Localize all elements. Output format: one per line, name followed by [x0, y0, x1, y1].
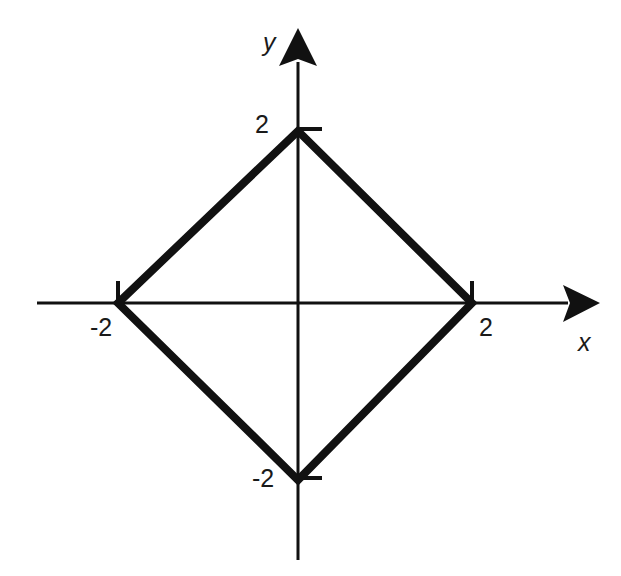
- coordinate-plot-svg: [0, 0, 621, 576]
- figure-canvas: 2 2 -2 -2 x y: [0, 0, 621, 576]
- y-axis-label: y: [263, 30, 276, 55]
- diamond-curve: [118, 131, 472, 480]
- diamond-shape-group: [118, 131, 472, 480]
- y-axis-arrowhead: [279, 28, 317, 66]
- tick-label-y-positive: 2: [255, 112, 269, 137]
- x-axis-arrowhead: [563, 285, 600, 322]
- axes-group: [37, 28, 600, 560]
- x-axis-label: x: [578, 330, 591, 355]
- tick-label-x-positive: 2: [479, 315, 493, 340]
- tick-label-y-negative: -2: [252, 466, 274, 491]
- tick-label-x-negative: -2: [90, 315, 112, 340]
